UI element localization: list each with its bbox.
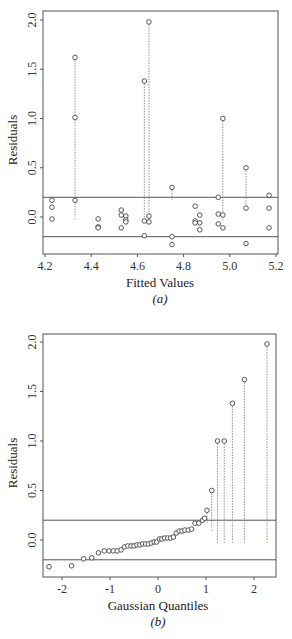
x-tick-label: 0: [155, 582, 161, 596]
y-tick-label: 1.0: [25, 111, 39, 126]
data-point: [197, 228, 202, 233]
data-point: [102, 549, 107, 554]
data-point: [242, 377, 247, 382]
drop-arrow-icon: ↓: [171, 195, 174, 201]
panel-caption-a: (a): [152, 291, 167, 306]
y-tick-label: 0.0: [25, 533, 39, 548]
drop-arrow-icon: ↓: [74, 215, 77, 221]
data-point: [73, 55, 78, 60]
data-point: [142, 79, 147, 84]
x-tick-label: 4.6: [130, 259, 145, 273]
y-tick-label: 2.0: [25, 13, 39, 28]
data-point: [81, 557, 86, 562]
data-point: [205, 508, 210, 513]
y-axis-label-a: Residuals: [5, 115, 20, 166]
data-point: [215, 439, 220, 444]
data-point: [142, 233, 147, 238]
x-tick-label: -1: [105, 582, 115, 596]
data-point: [142, 219, 147, 224]
drop-arrow-icon: ↓: [223, 538, 226, 544]
y-tick-label: 0.0: [25, 210, 39, 225]
data-point: [209, 488, 214, 493]
data-point: [50, 217, 55, 222]
data-point: [89, 556, 94, 561]
data-point: [216, 195, 221, 200]
data-point: [202, 516, 207, 521]
data-point: [119, 208, 124, 213]
data-point: [244, 241, 249, 246]
drop-arrow-icon: ↓: [243, 538, 246, 544]
y-tick-label: 1.5: [25, 384, 39, 399]
data-point: [96, 226, 101, 231]
y-tick-label: 0.5: [25, 483, 39, 498]
x-tick-label: 1: [203, 582, 209, 596]
data-point: [47, 564, 52, 569]
data-point: [267, 206, 272, 211]
y-tick-label: 0.5: [25, 160, 39, 175]
data-point: [170, 185, 175, 190]
x-tick-label: 4.8: [176, 259, 191, 273]
figure: ↓↓↓↓↓↓ 4.24.44.64.85.05.2 0.00.51.01.52.…: [0, 0, 292, 639]
x-tick-label: 5.0: [222, 259, 237, 273]
y-tick-label: 1.5: [25, 62, 39, 77]
data-point: [73, 115, 78, 120]
data-point: [244, 165, 249, 170]
data-point: [96, 551, 101, 556]
x-tick-label: 4.2: [38, 259, 53, 273]
x-tick-label: 4.4: [84, 259, 99, 273]
data-point: [221, 213, 226, 218]
data-point: [230, 401, 235, 406]
data-point: [193, 221, 198, 226]
data-point: [222, 439, 227, 444]
data-point: [221, 116, 226, 121]
drop-arrow-icon: ↓: [210, 526, 213, 532]
data-point: [189, 527, 194, 532]
data-point: [267, 193, 272, 198]
data-point: [147, 214, 152, 219]
data-point: [69, 563, 74, 568]
y-tick-label: 1.0: [25, 434, 39, 449]
data-point: [119, 226, 124, 231]
x-axis-label-b: Gaussian Quantiles: [108, 598, 209, 613]
data-point: [221, 226, 226, 231]
data-point: [267, 226, 272, 231]
data-point: [50, 205, 55, 210]
drop-arrow-icon: ↓: [265, 538, 268, 544]
y-axis-label-b: Residuals: [5, 438, 20, 489]
data-point: [50, 198, 55, 203]
data-point: [193, 204, 198, 209]
panel-caption-b: (b): [150, 614, 165, 629]
drop-arrow-icon: ↓: [231, 538, 234, 544]
data-point: [124, 220, 129, 225]
panel-a-fitted-vs-residuals: ↓↓↓↓↓↓ 4.24.44.64.85.05.2 0.00.51.01.52.…: [5, 11, 284, 306]
drop-arrow-icon: ↓: [216, 538, 219, 544]
data-point: [244, 206, 249, 211]
data-point: [96, 217, 101, 222]
x-tick-label: 2: [251, 582, 257, 596]
data-point: [119, 213, 124, 218]
data-point: [73, 198, 78, 203]
data-point: [147, 20, 152, 25]
data-point: [170, 234, 175, 239]
data-point: [197, 221, 202, 226]
panel-b-qq-plot: ↓↓↓↓↓↓↓ -2-1012 0.00.51.01.52.0 Gaussian…: [5, 334, 276, 629]
x-tick-label: 5.2: [269, 259, 284, 273]
plot-frame-a: [43, 11, 278, 254]
data-point: [170, 242, 175, 247]
data-point: [147, 220, 152, 225]
x-axis-label-a: Fitted Values: [126, 275, 194, 290]
data-point: [265, 342, 270, 347]
data-point: [197, 213, 202, 218]
data-point: [216, 222, 221, 227]
data-point: [216, 212, 221, 217]
x-tick-label: -2: [57, 582, 67, 596]
y-tick-label: 2.0: [25, 335, 39, 350]
